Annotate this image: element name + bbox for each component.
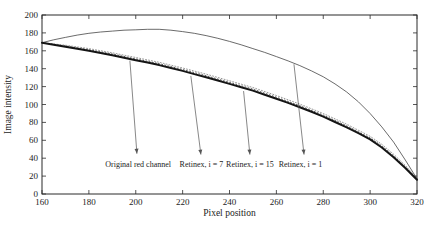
y-tick-label: 160 [25, 46, 39, 56]
intensity-vs-pixel-chart: 1601802002202402602803003200204060801001… [0, 0, 442, 229]
y-tick-label: 20 [29, 171, 39, 181]
x-axis-title: Pixel position [203, 208, 256, 218]
x-tick-label: 320 [410, 197, 424, 207]
annotation-arrowhead [301, 149, 306, 154]
y-tick-label: 40 [29, 153, 39, 163]
retinex-intensity-figure: 1601802002202402602803003200204060801001… [0, 0, 442, 229]
x-tick-label: 260 [270, 197, 284, 207]
annotation-arrow-line [244, 91, 250, 155]
series-retinex-i-15 [42, 43, 417, 179]
annotation-arrow-line [130, 61, 137, 154]
annotation-label: Retinex, i = 1 [279, 160, 323, 169]
series-original-red-channel [42, 43, 417, 180]
y-tick-label: 180 [25, 28, 39, 38]
y-tick-label: 100 [25, 100, 39, 110]
x-tick-label: 300 [363, 197, 377, 207]
annotation-arrow-line [191, 76, 201, 155]
y-tick-label: 140 [25, 64, 39, 74]
annotation-arrow-line [294, 64, 304, 154]
annotation-label: Retinex, i = 7 [180, 160, 224, 169]
y-tick-label: 60 [29, 135, 39, 145]
y-tick-label: 200 [25, 10, 39, 20]
y-tick-label: 120 [25, 82, 39, 92]
annotation-label: Retinex, i = 15 [226, 160, 274, 169]
annotation-arrowhead [247, 149, 251, 154]
x-tick-label: 180 [82, 197, 96, 207]
x-tick-label: 280 [317, 197, 331, 207]
x-tick-label: 220 [176, 197, 190, 207]
y-axis-title: Image intensity [3, 75, 13, 134]
y-tick-label: 80 [29, 117, 39, 127]
x-tick-label: 200 [129, 197, 143, 207]
y-tick-label: 0 [34, 189, 39, 199]
x-tick-label: 240 [223, 197, 237, 207]
annotation-label: Original red channel [105, 160, 172, 169]
series-retinex-i-7 [42, 43, 417, 179]
annotation-arrowhead [135, 149, 139, 154]
